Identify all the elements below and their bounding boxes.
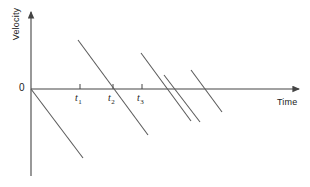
velocity-segments-group: [31, 40, 222, 158]
velocity-segment-5: [191, 70, 222, 112]
diagram-canvas: [0, 0, 310, 187]
velocity-segment-3: [141, 53, 191, 121]
x-axis-label: Time: [277, 97, 297, 107]
velocity-time-diagram: Velocity Time 0 t1 t2 t3: [0, 0, 310, 187]
origin-label: 0: [19, 82, 25, 93]
tick-label-t3-subscript: 3: [140, 98, 144, 106]
tick-label-t2-subscript: 2: [111, 98, 115, 106]
tick-label-t2: t2: [108, 92, 114, 103]
tick-label-t1: t1: [75, 92, 81, 103]
velocity-segment-2: [78, 40, 148, 135]
velocity-segment-4: [164, 75, 200, 122]
tick-label-t3: t3: [137, 92, 143, 103]
axes-group: [31, 12, 299, 176]
y-axis-label: Velocity: [11, 2, 21, 46]
tick-label-t1-subscript: 1: [78, 98, 82, 106]
